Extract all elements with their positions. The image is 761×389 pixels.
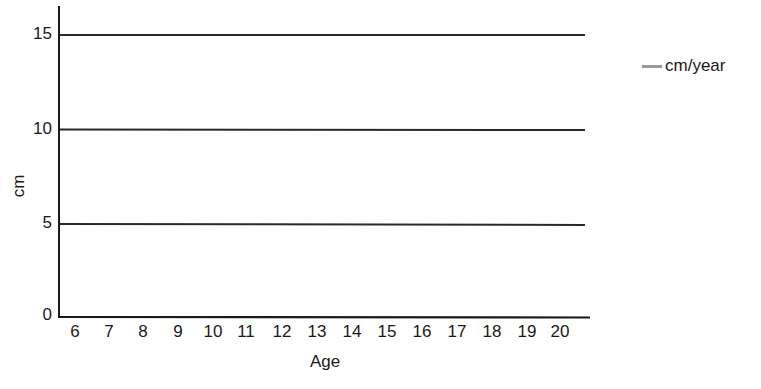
gridlines	[59, 35, 585, 225]
y-tick-10: 10	[12, 119, 52, 139]
y-tick-15: 15	[12, 24, 52, 44]
x-axis	[58, 317, 590, 318]
x-tick: 20	[545, 322, 575, 342]
y-axis-label: cm	[9, 169, 29, 203]
y-tick-5: 5	[12, 213, 52, 233]
legend-line-icon	[642, 65, 662, 68]
x-tick: 15	[372, 322, 402, 342]
x-tick: 11	[231, 322, 261, 342]
x-tick: 8	[128, 322, 158, 342]
legend-label: cm/year	[665, 56, 725, 76]
x-tick: 14	[337, 322, 367, 342]
x-tick: 18	[477, 322, 507, 342]
legend: cm/year	[642, 56, 725, 76]
x-tick: 10	[198, 322, 228, 342]
x-axis-label: Age	[305, 352, 345, 372]
x-tick: 19	[512, 322, 542, 342]
gridline-10	[59, 130, 585, 131]
x-tick: 9	[163, 322, 193, 342]
x-tick: 16	[407, 322, 437, 342]
y-tick-0: 0	[12, 305, 52, 325]
gridline-5	[59, 224, 585, 225]
x-tick: 17	[442, 322, 472, 342]
x-tick: 6	[60, 322, 90, 342]
x-tick: 12	[267, 322, 297, 342]
x-tick: 7	[94, 322, 124, 342]
x-tick: 13	[302, 322, 332, 342]
